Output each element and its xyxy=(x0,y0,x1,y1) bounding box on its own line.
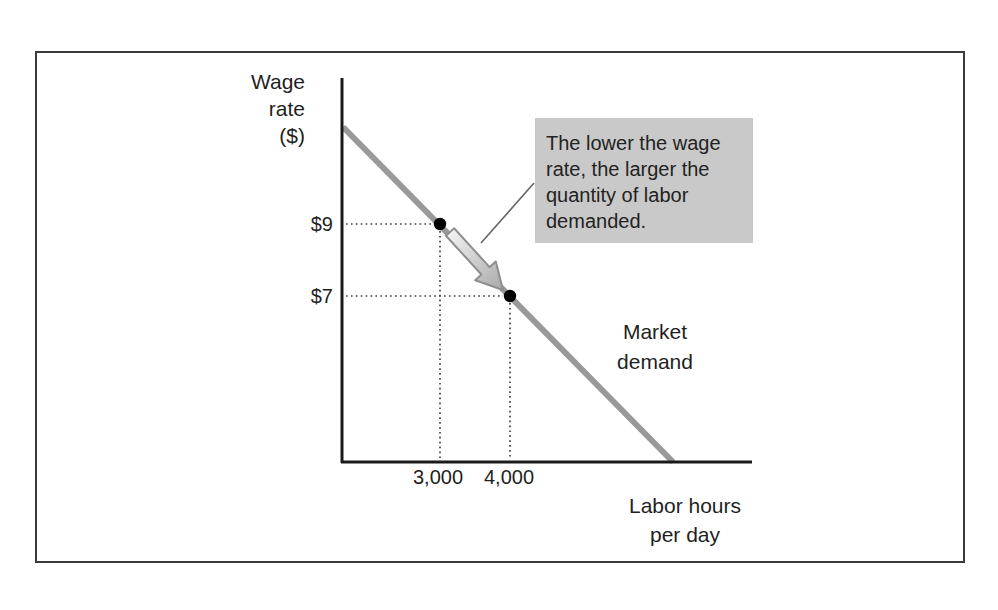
y-tick-7: $7 xyxy=(285,285,333,308)
annotation-text: The lower the wage rate, the larger the … xyxy=(546,130,745,234)
x-axis-label: Labor hours per day xyxy=(600,491,770,549)
chart-canvas xyxy=(0,0,998,610)
x-tick-4000: 4,000 xyxy=(470,466,548,489)
callout-leader-line xyxy=(481,183,534,243)
y-axis-label: Wage rate ($) xyxy=(205,68,305,149)
y-tick-9: $9 xyxy=(285,213,333,236)
annotation-callout: The lower the wage rate, the larger the … xyxy=(535,118,753,243)
x-tick-3000: 3,000 xyxy=(399,466,477,489)
point-4000-7 xyxy=(504,290,516,302)
curve-label: Market demand xyxy=(570,317,740,377)
point-3000-9 xyxy=(434,218,446,230)
movement-arrow xyxy=(446,228,503,290)
